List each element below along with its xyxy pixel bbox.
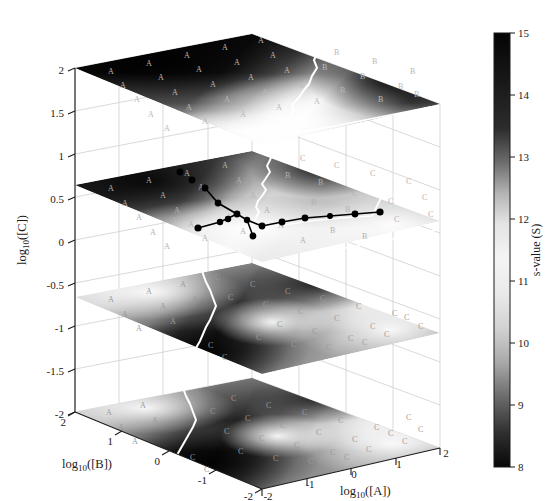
- svg-text:A: A: [186, 103, 192, 112]
- colorbar-tick: 15: [518, 27, 530, 39]
- svg-text:C: C: [330, 448, 335, 457]
- svg-text:A: A: [202, 234, 208, 243]
- surface-slice-zm067: AA A AA A AA CC CC CC CC CC CC CC CC CC …: [55, 256, 485, 384]
- svg-text:A: A: [234, 58, 240, 67]
- figure-canvas: AA AA A AA AA A AA AA A AA AA A AA AA A …: [0, 0, 546, 501]
- colorbar-tick: 8: [518, 461, 524, 473]
- svg-text:A: A: [174, 206, 180, 215]
- svg-text:A: A: [160, 191, 166, 200]
- svg-text:A: A: [196, 65, 202, 74]
- svg-text:A: A: [146, 287, 152, 296]
- svg-text:A: A: [236, 176, 242, 185]
- svg-text:A: A: [188, 220, 194, 229]
- svg-text:C: C: [334, 314, 339, 323]
- svg-text:B: B: [311, 198, 316, 207]
- svg-text:A: A: [224, 95, 230, 104]
- svg-text:A: A: [202, 117, 208, 126]
- y-tick: 0: [155, 455, 161, 467]
- svg-text:A: A: [192, 295, 198, 304]
- svg-text:C: C: [238, 447, 243, 456]
- svg-text:A: A: [122, 310, 128, 319]
- svg-text:A: A: [136, 324, 142, 333]
- colorbar-gradient: [494, 33, 510, 467]
- surface-slice-z2: AA AA A AA AA A AA AA A AA AA A AA AA A …: [50, 22, 477, 162]
- svg-text:C: C: [404, 313, 409, 322]
- plot-svg: AA AA A AA AA A AA AA A AA AA A AA AA A …: [0, 0, 546, 501]
- svg-text:C: C: [298, 307, 303, 316]
- y-tick: 1: [108, 435, 114, 447]
- colorbar[interactable]: 15 14 13 12 11 10 9 8 s-value (S): [494, 27, 543, 473]
- svg-text:C: C: [291, 340, 296, 349]
- svg-text:C: C: [210, 407, 215, 416]
- svg-text:B: B: [334, 48, 339, 57]
- svg-text:A: A: [262, 88, 268, 97]
- svg-text:A: A: [284, 66, 290, 75]
- svg-text:A: A: [108, 295, 114, 304]
- z-axis-label: log10([C]): [15, 215, 31, 265]
- svg-text:B: B: [318, 178, 323, 187]
- svg-text:C: C: [352, 189, 357, 198]
- svg-text:B: B: [322, 63, 327, 72]
- svg-text:C: C: [266, 401, 271, 410]
- svg-text:A: A: [258, 36, 264, 45]
- z-tick: 1.5: [50, 107, 64, 119]
- svg-text:C: C: [308, 457, 313, 466]
- svg-text:A: A: [148, 110, 154, 119]
- svg-text:A: A: [240, 110, 246, 119]
- svg-text:s-value (S): s-value (S): [529, 224, 543, 276]
- svg-text:C: C: [316, 428, 321, 437]
- z-tick: 2: [59, 64, 65, 76]
- svg-text:log10([C]): log10([C]): [15, 215, 31, 265]
- svg-text:C: C: [300, 154, 305, 163]
- svg-text:C: C: [366, 445, 371, 454]
- svg-text:C: C: [344, 453, 349, 462]
- svg-text:C: C: [388, 429, 393, 438]
- svg-text:C: C: [422, 193, 427, 202]
- z-tick: -1.5: [47, 365, 65, 377]
- svg-text:C: C: [259, 434, 264, 443]
- svg-text:B: B: [378, 95, 383, 104]
- svg-text:B: B: [360, 72, 365, 81]
- svg-text:A: A: [180, 280, 186, 289]
- svg-text:C: C: [374, 423, 379, 432]
- colorbar-tick: 9: [518, 399, 524, 411]
- colorbar-tick: 12: [518, 213, 529, 225]
- svg-text:C: C: [302, 408, 307, 417]
- svg-text:C: C: [273, 454, 278, 463]
- svg-text:C: C: [242, 313, 247, 322]
- colorbar-tick: 14: [518, 89, 530, 101]
- svg-text:C: C: [256, 333, 261, 342]
- svg-text:A: A: [250, 191, 256, 200]
- z-tick: 0: [59, 236, 65, 248]
- svg-text:B: B: [410, 67, 415, 76]
- svg-text:C: C: [250, 280, 255, 289]
- svg-text:C: C: [348, 334, 353, 343]
- svg-text:A: A: [264, 206, 270, 215]
- svg-text:C: C: [388, 197, 393, 206]
- svg-text:C: C: [338, 416, 343, 425]
- x-tick: -1: [305, 478, 314, 490]
- y-axis-label: log10([B]): [62, 457, 112, 473]
- svg-text:A: A: [184, 51, 190, 60]
- svg-text:A: A: [270, 51, 276, 60]
- z-axis: 2 1.5 1 0.5 0 -0.5 -1 -1.5 -2 log10([C]): [15, 64, 75, 420]
- x-tick: 0: [351, 468, 357, 480]
- svg-text:C: C: [384, 330, 389, 339]
- x-tick: -2: [263, 490, 272, 501]
- svg-text:B: B: [340, 86, 345, 95]
- x-tick: 1: [396, 458, 402, 470]
- svg-text:B: B: [414, 90, 419, 99]
- svg-text:C: C: [231, 394, 236, 403]
- svg-text:B: B: [372, 57, 377, 66]
- svg-text:A: A: [248, 73, 254, 82]
- svg-text:A: A: [146, 176, 152, 185]
- svg-text:C: C: [418, 322, 423, 331]
- svg-text:A: A: [314, 97, 320, 106]
- svg-text:C: C: [418, 425, 423, 434]
- svg-text:C: C: [326, 343, 331, 352]
- colorbar-tick: 11: [518, 275, 529, 287]
- z-tick: -0.5: [47, 279, 65, 291]
- svg-text:A: A: [136, 213, 142, 222]
- colorbar-tick: 10: [518, 337, 530, 349]
- surface-slice-zm2: AA AA A CC CC CC CC CC CC CC CC CC CC CC…: [55, 372, 487, 494]
